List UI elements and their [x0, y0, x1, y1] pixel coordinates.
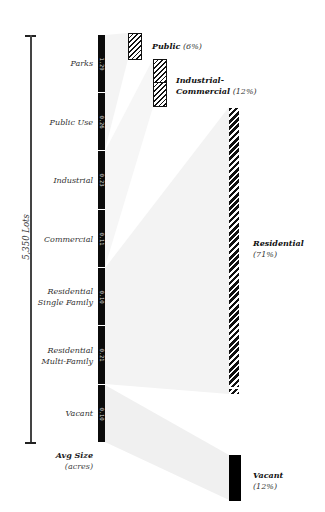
- label-line: Residential: [42, 345, 93, 356]
- label-residential-single: Residential Single Family: [38, 286, 93, 308]
- group-pct: (12%): [253, 482, 277, 491]
- label-line: Multi-Family: [42, 356, 93, 367]
- bar-industrial-commercial-bottom: [153, 82, 167, 107]
- lots-axis-label: 5,350 Lots: [21, 197, 31, 277]
- label-commercial: Commercial: [44, 234, 93, 245]
- segment-value: 0.23: [99, 169, 105, 192]
- bar-industrial-commercial-top: [153, 59, 167, 84]
- segment-vacant: 0.10: [98, 385, 105, 442]
- label-industrial: Industrial: [53, 175, 93, 186]
- group-name: Industrial-: [176, 75, 224, 85]
- avg-size-title: Avg Size: [56, 450, 93, 460]
- segment-value: 0.10: [99, 285, 105, 308]
- segment-residential-single: 0.10: [98, 268, 105, 325]
- group-pct: (12%): [233, 87, 257, 96]
- label-residential: Residential (71%): [253, 238, 304, 260]
- segment-residential-multi: 0.21: [98, 326, 105, 384]
- segment-value: 1.29: [99, 52, 105, 75]
- segment-value: 0.11: [99, 227, 105, 250]
- label-line: Residential: [38, 286, 93, 297]
- group-name: Vacant: [253, 470, 283, 480]
- segment-parks: 1.29: [98, 35, 105, 92]
- segment-public-use: 0.26: [98, 93, 105, 150]
- segment-industrial: 0.23: [98, 151, 105, 209]
- segment-value: 0.26: [99, 110, 105, 133]
- bar-vacant: [229, 455, 241, 501]
- segment-commercial: 0.11: [98, 210, 105, 267]
- label-line: Single Family: [38, 297, 93, 308]
- label-public-use: Public Use: [50, 117, 93, 128]
- axis-cap-bottom: [25, 442, 36, 444]
- group-name: Commercial: [176, 86, 230, 96]
- bar-public: [128, 33, 142, 60]
- label-vacant: Vacant: [66, 408, 93, 419]
- label-residential-multi: Residential Multi-Family: [42, 345, 93, 367]
- label-public: Public (6%): [152, 41, 202, 52]
- segment-value: 0.10: [99, 402, 105, 425]
- group-pct: (71%): [253, 250, 277, 259]
- segment-value: 0.21: [99, 344, 105, 367]
- group-name: Public: [152, 41, 180, 51]
- avg-size-unit: (acres): [65, 462, 93, 471]
- label-parks: Parks: [70, 58, 93, 69]
- bar-residential-multi: [229, 389, 239, 394]
- group-pct: (6%): [183, 42, 202, 51]
- group-name: Residential: [253, 238, 304, 248]
- avg-size-footer: Avg Size (acres): [56, 450, 93, 472]
- bar-residential-single: [229, 108, 239, 387]
- label-vacant-group: Vacant (12%): [253, 470, 283, 492]
- label-industrial-commercial: Industrial- Commercial (12%): [176, 75, 257, 97]
